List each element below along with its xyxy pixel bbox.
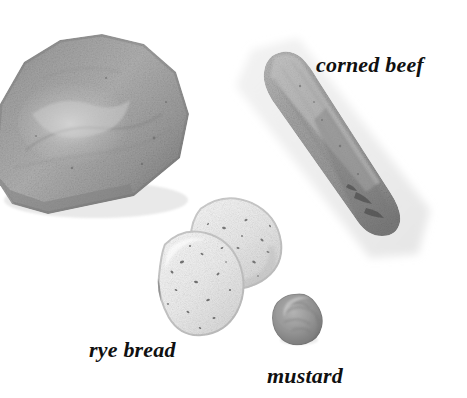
ingredients-scene: corned beef rye bread mustard bbox=[0, 0, 467, 398]
label-corned-beef: corned beef bbox=[316, 54, 424, 76]
label-rye-bread: rye bread bbox=[89, 339, 176, 361]
label-mustard: mustard bbox=[267, 365, 343, 387]
mustard-image bbox=[268, 288, 330, 350]
